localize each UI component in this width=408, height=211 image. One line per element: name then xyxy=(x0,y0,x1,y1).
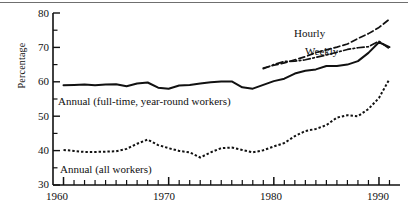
series-layer xyxy=(64,19,390,157)
chart-figure: Percentage 80 70 60 50 40 30 1960 1970 1… xyxy=(0,0,408,211)
axes-layer xyxy=(53,13,400,185)
series-line-dotted xyxy=(64,79,390,157)
series-line-solid xyxy=(64,42,390,88)
series-line-dashed xyxy=(263,19,389,68)
series-line-dashdot xyxy=(263,41,389,69)
plot-canvas xyxy=(0,0,408,211)
